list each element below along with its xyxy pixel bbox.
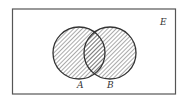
- venn-diagram: E A B: [0, 0, 184, 103]
- universe-label: E: [159, 17, 167, 27]
- set-b-label: B: [106, 80, 114, 90]
- set-a-label: A: [76, 80, 84, 90]
